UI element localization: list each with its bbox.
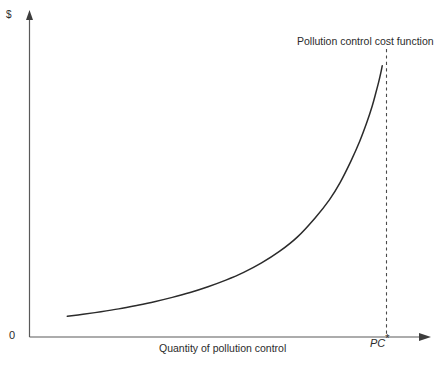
pollution-control-cost-curve [67, 66, 382, 317]
curve-annotation-label: Pollution control cost function [297, 36, 434, 47]
pollution-control-cost-chart: $ 0 Quantity of pollution control Pollut… [0, 0, 446, 365]
threshold-label-superscript: * [385, 332, 389, 344]
origin-label: 0 [9, 330, 15, 341]
x-axis-title: Quantity of pollution control [159, 343, 286, 354]
chart-plot-area [0, 0, 446, 365]
y-axis-arrowhead [26, 10, 33, 20]
threshold-label: PC* [370, 338, 390, 349]
x-axis-arrowhead [419, 333, 431, 341]
threshold-label-text: PC [370, 337, 385, 349]
y-axis-title: $ [6, 10, 12, 20]
